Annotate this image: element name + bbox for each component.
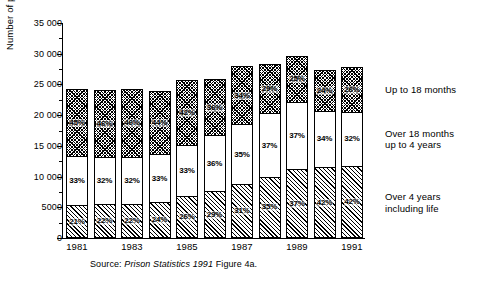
segment-bot-1987: 31% — [232, 184, 252, 237]
y-major-tick — [57, 177, 62, 178]
y-minor-tick — [59, 161, 62, 162]
segment-top-1990: 24% — [315, 71, 335, 110]
segment-percent-label: 36% — [207, 160, 222, 168]
segment-percent-label: 34% — [317, 135, 332, 143]
segment-top-1987: 34% — [232, 67, 252, 124]
segment-percent-label: 22% — [96, 217, 112, 225]
segment-percent-label: 46% — [124, 119, 140, 127]
y-minor-tick — [59, 38, 62, 39]
segment-percent-label: 46% — [96, 120, 112, 128]
segment-percent-label: 32% — [124, 177, 139, 185]
segment-mid-1981: 33% — [67, 156, 87, 205]
segment-percent-label: 29% — [261, 85, 277, 93]
legend-item-bot: Over 4 yearsincluding life — [385, 191, 441, 214]
legend-label-line1: Up to 18 months — [385, 84, 456, 96]
segment-percent-label: 42% — [179, 109, 195, 117]
y-minor-tick — [59, 223, 62, 224]
segment-top-1982: 46% — [95, 91, 115, 157]
segment-mid-1986: 36% — [205, 135, 225, 191]
segment-bot-1982: 22% — [95, 204, 115, 237]
segment-percent-label: 33% — [152, 175, 167, 183]
segment-percent-label: 35% — [234, 151, 249, 159]
segment-bot-1985: 26% — [177, 196, 197, 237]
segment-bot-1990: 42% — [315, 167, 335, 237]
segment-percent-label: 35% — [261, 203, 277, 211]
x-tick-label-1985: 1985 — [167, 241, 207, 252]
segment-percent-label: 32% — [97, 177, 112, 185]
segment-top-1989: 25% — [287, 57, 307, 102]
bar-1987: 34%35%31% — [231, 66, 253, 238]
x-tick-label-1989: 1989 — [277, 241, 317, 252]
y-major-tick — [57, 207, 62, 208]
segment-bot-1981: 21% — [67, 205, 87, 237]
segment-percent-label: 21% — [69, 218, 85, 226]
segment-mid-1985: 33% — [177, 145, 197, 196]
legend-label-line2: up to 4 years — [385, 139, 454, 151]
source-title: Prison Statistics 1991 — [124, 259, 213, 269]
segment-percent-label: 37% — [289, 200, 305, 208]
bar-1984: 44%33%24% — [149, 91, 171, 238]
segment-bot-1984: 24% — [150, 202, 170, 237]
segment-bot-1991: 42% — [342, 166, 362, 237]
y-major-tick — [57, 146, 62, 147]
segment-mid-1989: 37% — [287, 102, 307, 170]
segment-top-1985: 42% — [177, 81, 197, 145]
segment-percent-label: 32% — [344, 135, 359, 143]
segment-top-1986: 36% — [205, 80, 225, 135]
bar-1986: 36%36%29% — [204, 79, 226, 238]
y-axis-line — [62, 23, 63, 239]
x-tick-label-1983: 1983 — [112, 241, 152, 252]
bar-1982: 46%32%22% — [94, 90, 116, 238]
x-axis-line — [62, 238, 365, 239]
legend-label-line1: Over 4 years — [385, 191, 441, 203]
segment-bot-1989: 37% — [287, 169, 307, 237]
bar-1988: 29%37%35% — [259, 64, 281, 238]
segment-percent-label: 42% — [344, 198, 360, 206]
segment-mid-1991: 32% — [342, 112, 362, 166]
y-axis-tick-labels: 0500010 00015 00020 00025 00030 00035 00… — [0, 0, 62, 281]
segment-percent-label: 31% — [234, 207, 250, 215]
segment-top-1988: 29% — [260, 65, 280, 114]
segment-mid-1982: 32% — [95, 157, 115, 204]
segment-percent-label: 26% — [179, 213, 195, 221]
segment-percent-label: 33% — [69, 177, 84, 185]
legend-item-top: Up to 18 months — [385, 84, 456, 96]
x-tick-label-1991: 1991 — [332, 241, 372, 252]
segment-mid-1988: 37% — [260, 113, 280, 176]
bar-1981: 45%33%21% — [66, 89, 88, 238]
legend-label-line1: Over 18 months — [385, 128, 454, 140]
segment-mid-1987: 35% — [232, 124, 252, 184]
source-caption: Source: Prison Statistics 1991 Figure 4a… — [90, 259, 257, 269]
plot-area: 45%33%21%46%32%22%46%32%22%44%33%24%42%3… — [66, 23, 363, 238]
segment-mid-1984: 33% — [150, 154, 170, 202]
segment-bot-1983: 22% — [122, 204, 142, 237]
segment-mid-1983: 32% — [122, 157, 142, 204]
bar-1983: 46%32%22% — [121, 89, 143, 238]
y-minor-tick — [59, 192, 62, 193]
bar-1989: 25%37%37% — [286, 56, 308, 238]
y-major-tick — [57, 23, 62, 24]
segment-percent-label: 26% — [344, 86, 360, 94]
y-minor-tick — [59, 131, 62, 132]
x-tick-label-1981: 1981 — [57, 241, 97, 252]
source-prefix: Source: — [90, 259, 124, 269]
segment-mid-1990: 34% — [315, 111, 335, 168]
segment-percent-label: 29% — [206, 211, 222, 219]
legend-item-mid: Over 18 monthsup to 4 years — [385, 128, 454, 151]
segment-percent-label: 33% — [179, 167, 194, 175]
legend-label-line2: including life — [385, 203, 441, 215]
segment-percent-label: 24% — [316, 87, 332, 95]
y-major-tick — [57, 115, 62, 116]
segment-percent-label: 22% — [124, 217, 140, 225]
segment-percent-label: 37% — [289, 132, 304, 140]
source-suffix: Figure 4a. — [213, 259, 257, 269]
segment-percent-label: 42% — [316, 199, 332, 207]
segment-bot-1988: 35% — [260, 177, 280, 237]
segment-percent-label: 45% — [69, 119, 85, 127]
segment-percent-label: 44% — [151, 119, 167, 127]
y-major-tick — [57, 84, 62, 85]
segment-bot-1986: 29% — [205, 191, 225, 237]
segment-percent-label: 24% — [151, 216, 167, 224]
y-major-tick — [57, 54, 62, 55]
x-tick-label-1987: 1987 — [222, 241, 262, 252]
